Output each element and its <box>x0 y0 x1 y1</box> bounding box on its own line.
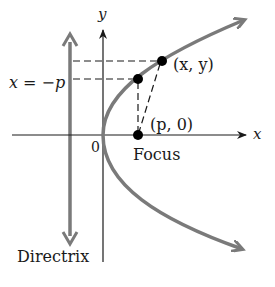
point-x-y <box>157 56 167 66</box>
y-axis-label: y <box>97 5 107 23</box>
directrix-label: Directrix <box>17 247 89 266</box>
directrix-line <box>63 34 77 244</box>
directrix-equation: x = −p <box>9 73 65 92</box>
x-axis-label: x <box>253 125 262 143</box>
focus-label: Focus <box>133 145 180 164</box>
parabola-diagram: y x 0 x = −p (x, y) (p, 0) Focus Directr… <box>0 0 275 287</box>
point-on-directrix-level <box>133 74 143 84</box>
origin-label: 0 <box>91 139 100 155</box>
focus-point <box>133 130 143 140</box>
point-label: (x, y) <box>173 55 214 74</box>
focus-coords-label: (p, 0) <box>150 115 193 134</box>
